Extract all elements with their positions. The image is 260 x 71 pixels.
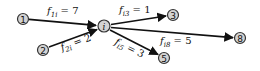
svg-text:3: 3 (170, 11, 176, 21)
edge-label-2i: f2i = 2 (58, 32, 93, 56)
node-1: 1 (18, 14, 29, 25)
node-5: 5 (159, 53, 170, 64)
node-i: i (98, 20, 110, 32)
svg-text:8: 8 (237, 34, 243, 44)
svg-text:1: 1 (20, 15, 26, 25)
node-8: 8 (235, 33, 246, 44)
svg-text:5: 5 (161, 54, 167, 64)
node-2: 2 (38, 45, 49, 56)
svg-text:i: i (103, 22, 106, 32)
node-3: 3 (168, 10, 179, 21)
edge-label-1i: f1i = 7 (46, 5, 79, 19)
edge-label-i3: fi3 = 1 (118, 4, 151, 18)
svg-text:2: 2 (40, 46, 46, 56)
edge-label-i8: fi8 = 5 (159, 35, 192, 49)
flow-diagram: f1i = 7 f2i = 2 fi3 = 1 fi5 = 3 fi8 = 5 … (0, 0, 260, 71)
edge-1-to-i (29, 19, 96, 25)
edge-i-to-3 (111, 16, 166, 25)
